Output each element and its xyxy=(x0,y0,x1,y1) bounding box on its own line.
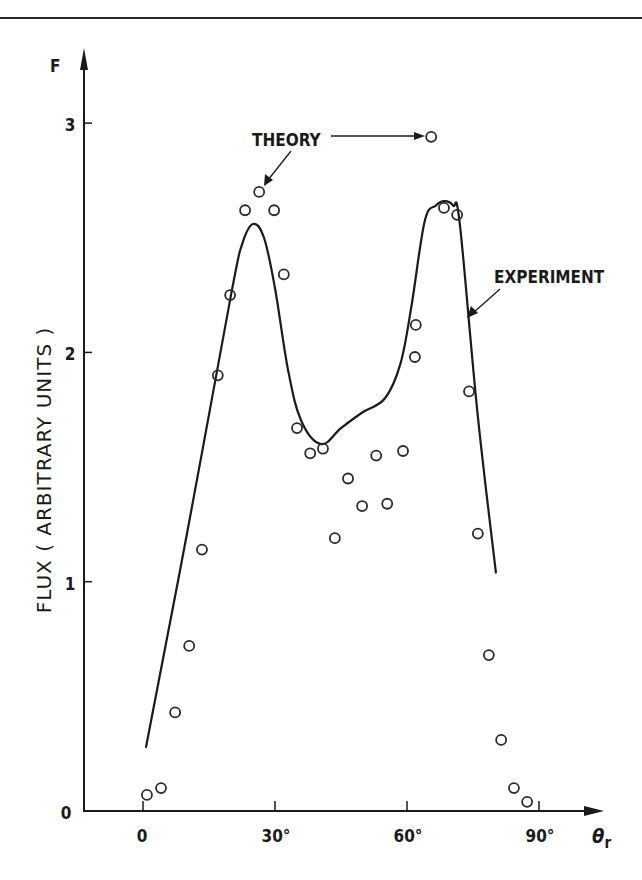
theory-point xyxy=(509,783,519,793)
axes xyxy=(83,62,590,812)
theory-point xyxy=(142,790,152,800)
theory-point xyxy=(382,499,392,509)
x-ticks xyxy=(143,801,539,811)
x-tick-label-30: 30° xyxy=(262,826,291,846)
theory-point xyxy=(398,446,408,456)
theory-arrow-right-head-icon xyxy=(414,132,425,140)
theory-point xyxy=(269,205,279,215)
theory-point xyxy=(464,386,474,396)
y-tick-label-3: 3 xyxy=(65,115,76,135)
theory-point xyxy=(184,641,194,651)
theory-point xyxy=(156,783,166,793)
y-axis-arrow-icon xyxy=(80,48,88,70)
x-tick-label-0: 0 xyxy=(137,826,148,846)
theory-point xyxy=(357,501,367,511)
theory-point xyxy=(343,474,353,484)
y-ticks xyxy=(84,123,92,582)
theory-point xyxy=(240,205,250,215)
theory-point xyxy=(496,735,506,745)
experiment-label: EXPERIMENT xyxy=(494,267,605,287)
y-tick-label-0: 0 xyxy=(61,803,72,823)
x-tick-label-60: 60° xyxy=(394,826,423,846)
theory-point xyxy=(197,545,207,555)
theory-point xyxy=(254,187,264,197)
y-tick-label-2: 2 xyxy=(65,344,76,364)
x-axis-symbol-theta: θ xyxy=(592,824,604,848)
y-axis-symbol: F xyxy=(50,56,60,76)
theory-point xyxy=(473,529,483,539)
theory-point xyxy=(426,132,436,142)
theory-point xyxy=(330,533,340,543)
theory-point xyxy=(305,448,315,458)
x-axis-symbol: θr xyxy=(592,824,611,852)
theory-label: THEORY xyxy=(252,130,322,150)
theory-point xyxy=(439,203,449,213)
experiment-arrow-line xyxy=(473,289,500,313)
theory-points xyxy=(142,132,532,807)
theory-point xyxy=(484,650,494,660)
x-tick-labels: 0 30° 60° 90° xyxy=(137,826,555,846)
theory-point xyxy=(170,707,180,717)
theory-point xyxy=(410,352,420,362)
theory-point xyxy=(279,269,289,279)
x-axis-arrow-icon xyxy=(584,806,604,816)
y-axis-title: FLUX ( ARBITRARY UNITS ) xyxy=(32,327,56,613)
y-tick-labels: 0 1 2 3 xyxy=(61,115,76,823)
theory-arrow-down xyxy=(268,151,291,180)
theory-point xyxy=(292,423,302,433)
experiment-line xyxy=(146,201,496,747)
experiment-arrow xyxy=(467,289,500,318)
x-axis-symbol-sub: r xyxy=(604,834,611,852)
x-tick-label-90: 90° xyxy=(526,826,555,846)
flux-chart: 0 1 2 3 0 30° 60° 90° F θr FLUX ( ARBITR… xyxy=(0,0,642,880)
theory-point xyxy=(371,451,381,461)
theory-point xyxy=(522,797,532,807)
theory-point xyxy=(411,320,421,330)
y-tick-label-1: 1 xyxy=(65,574,76,594)
